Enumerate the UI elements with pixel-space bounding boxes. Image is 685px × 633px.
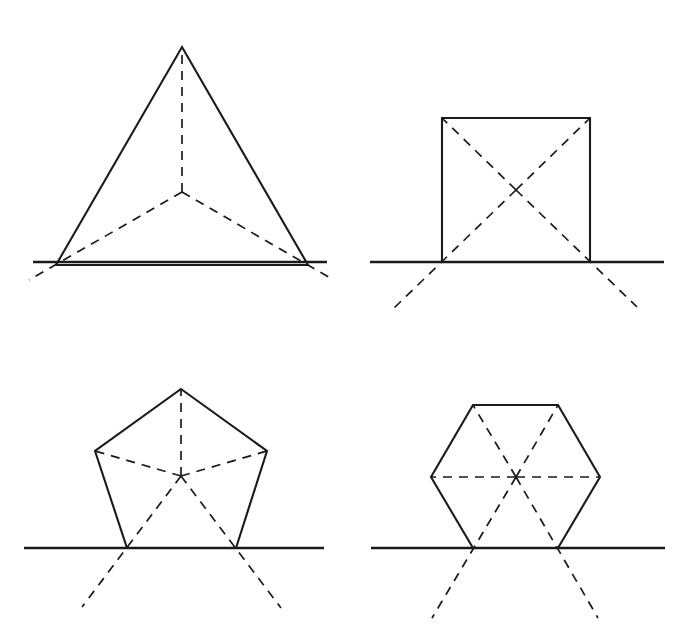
dashed-radius-square-1 <box>516 118 590 190</box>
dashed-radius-triangle-2 <box>29 192 182 280</box>
dashed-radius-pentagon-4 <box>95 451 181 476</box>
panel-group-pentagon <box>24 389 324 608</box>
figure-canvas <box>0 0 685 633</box>
dashed-radius-pentagon-2 <box>181 476 281 608</box>
dashed-radius-pentagon-1 <box>181 451 267 476</box>
dashed-radius-square-3 <box>394 190 516 308</box>
dashed-radius-square-0 <box>442 118 516 190</box>
panel-group-hexagon <box>371 405 665 618</box>
panel-group-square <box>370 118 664 308</box>
polygon-diagram <box>0 0 685 633</box>
dashed-radius-pentagon-3 <box>82 476 181 607</box>
panel-group-triangle <box>29 47 332 280</box>
dashed-radius-hexagon-1 <box>516 405 558 477</box>
dashed-radius-hexagon-0 <box>473 405 516 477</box>
dashed-radius-square-2 <box>516 190 637 307</box>
